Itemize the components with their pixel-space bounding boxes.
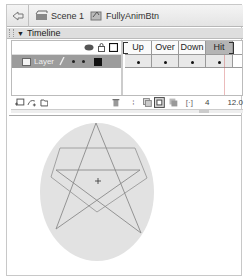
frame-label-up[interactable]: Up xyxy=(125,41,152,54)
timeline-scrollbar[interactable] xyxy=(11,109,243,113)
back-button[interactable] xyxy=(7,5,29,27)
frame-label-over[interactable]: Over xyxy=(152,41,179,54)
layer-row[interactable]: Layer xyxy=(12,55,121,68)
keyframe[interactable] xyxy=(152,55,179,67)
breadcrumb-label: FullyAnimBtn xyxy=(106,11,159,21)
timeline-header[interactable]: ▼ Timeline xyxy=(7,28,243,39)
add-motion-guide-icon[interactable] xyxy=(27,98,37,107)
edit-multiple-icon[interactable] xyxy=(169,98,178,107)
flash-editor-panel: Scene 1 FullyAnimBtn ▼ Timeline Layer xyxy=(6,4,242,276)
outline-color-swatch[interactable] xyxy=(94,58,102,66)
playhead[interactable] xyxy=(224,55,225,95)
timeline-panel: Layer Up Over Down Hit xyxy=(11,40,243,96)
current-frame: 4 xyxy=(205,98,209,107)
keyframe[interactable] xyxy=(179,55,206,67)
pencil-icon xyxy=(59,57,65,66)
frame-rate: 12.0 xyxy=(227,98,243,107)
breadcrumb-label: Scene 1 xyxy=(51,11,84,21)
add-folder-icon[interactable] xyxy=(39,98,49,107)
back-arrow-icon xyxy=(12,11,24,21)
onion-outline-icon[interactable] xyxy=(154,97,165,108)
visibility-dot[interactable] xyxy=(72,60,75,63)
layer-list: Layer xyxy=(12,41,123,95)
layer-header xyxy=(12,41,121,55)
layer-name: Layer xyxy=(34,57,54,66)
onion-skin-icon[interactable] xyxy=(143,98,152,107)
layer-page-icon xyxy=(22,58,31,66)
frame-header: Up Over Down Hit xyxy=(125,41,242,55)
scroll-thumb[interactable] xyxy=(199,110,209,113)
onion-end-marker[interactable] xyxy=(229,42,234,54)
lock-icon[interactable] xyxy=(98,43,105,52)
center-frame-icon[interactable]: ⁞ xyxy=(132,98,134,107)
outline-icon[interactable] xyxy=(109,43,118,52)
edit-bar: Scene 1 FullyAnimBtn xyxy=(7,5,243,27)
modify-markers-icon[interactable]: [·] xyxy=(186,98,193,107)
keyframe[interactable] xyxy=(206,55,233,67)
delete-icon[interactable] xyxy=(112,98,120,107)
lock-dot[interactable] xyxy=(82,60,85,63)
breadcrumb-scene[interactable]: Scene 1 xyxy=(35,10,84,21)
button-symbol-icon xyxy=(90,10,103,21)
hit-area-ellipse[interactable] xyxy=(40,123,154,261)
add-layer-icon[interactable] xyxy=(15,98,25,107)
onion-start-marker[interactable] xyxy=(123,42,128,54)
timeline-title: Timeline xyxy=(27,28,61,38)
timeline-footer: ⁞ [·] 4 12.0 xyxy=(11,96,243,108)
collapse-triangle-icon[interactable]: ▼ xyxy=(17,30,24,37)
keyframe[interactable] xyxy=(125,55,152,67)
eye-icon[interactable] xyxy=(84,44,94,51)
frame-area: Up Over Down Hit xyxy=(125,41,242,95)
frame-label-down[interactable]: Down xyxy=(179,41,206,54)
scene-clapboard-icon xyxy=(35,10,48,21)
stage-canvas[interactable] xyxy=(9,115,241,275)
stage-artwork[interactable] xyxy=(9,116,241,276)
gripper-icon[interactable] xyxy=(9,29,14,37)
breadcrumb-symbol[interactable]: FullyAnimBtn xyxy=(90,10,159,21)
